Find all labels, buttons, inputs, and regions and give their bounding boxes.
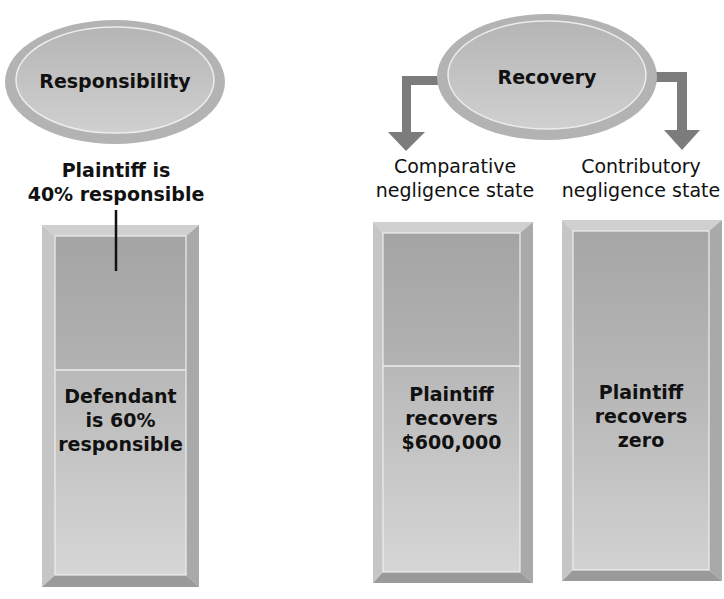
recovery-title: Recovery [447, 66, 647, 89]
comparative-result-line1: Plaintiff [383, 382, 520, 406]
contributory-caption: Contributory negligence state [555, 154, 724, 202]
arrow-to-contributory [650, 72, 700, 150]
contributory-result-line3: zero [573, 428, 709, 452]
comparative-result-text: Plaintiff recovers $600,000 [383, 382, 520, 454]
comparative-caption: Comparative negligence state [360, 154, 550, 202]
responsibility-title: Responsibility [15, 70, 215, 93]
defendant-line2: is 60% [55, 408, 186, 432]
plaintiff-responsibility-caption: Plaintiff is 40% responsible [0, 158, 232, 206]
comparative-result-line3: $600,000 [383, 430, 520, 454]
defendant-line1: Defendant [55, 384, 186, 408]
contributory-caption-line1: Contributory [555, 154, 724, 178]
plaintiff-caption-line1: Plaintiff is [0, 158, 232, 182]
comparative-caption-line2: negligence state [360, 178, 550, 202]
defendant-line3: responsible [55, 432, 186, 456]
arrow-to-comparative [388, 76, 445, 151]
plaintiff-caption-line2: 40% responsible [0, 182, 232, 206]
comparative-caption-line1: Comparative [360, 154, 550, 178]
comparative-result-line2: recovers [383, 406, 520, 430]
contributory-result-text: Plaintiff recovers zero [573, 380, 709, 452]
defendant-responsibility-text: Defendant is 60% responsible [55, 384, 186, 456]
contributory-result-line2: recovers [573, 404, 709, 428]
contributory-caption-line2: negligence state [555, 178, 724, 202]
contributory-result-line1: Plaintiff [573, 380, 709, 404]
